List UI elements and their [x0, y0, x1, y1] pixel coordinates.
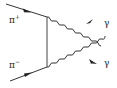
photon-top-arrow-icon	[86, 19, 93, 26]
pi-minus-label: π−	[9, 59, 20, 70]
pi-minus-arrow-icon	[24, 73, 32, 78]
photon-line-bottom	[47, 17, 101, 46]
photon-bottom-arrow-icon	[88, 59, 97, 64]
gamma-bottom-label: γ	[104, 59, 109, 68]
gamma-top-label: γ	[104, 19, 109, 28]
pi-plus-label: π+	[9, 14, 20, 25]
feynman-diagram: π+ π− γ γ	[0, 0, 117, 88]
pi-plus-arrow-icon	[23, 9, 31, 13]
